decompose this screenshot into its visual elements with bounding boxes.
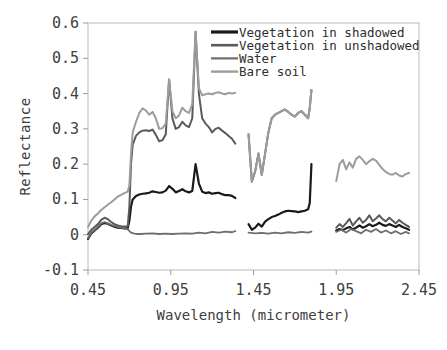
y-tick-label: 0.6 (52, 14, 79, 32)
y-tick-label: 0 (70, 226, 79, 244)
x-tick-label: 2.45 (401, 281, 437, 299)
x-tick-label: 1.95 (318, 281, 354, 299)
x-tick-label: 0.45 (70, 281, 106, 299)
y-tick-label: 0.5 (52, 49, 79, 67)
y-axis-title: Reflectance (17, 97, 33, 195)
y-tick-label: 0.4 (52, 85, 79, 103)
y-tick-label: 0.2 (52, 155, 79, 173)
series-line-3 (336, 229, 409, 234)
series-line-4 (336, 156, 409, 181)
series-line-1 (88, 164, 235, 239)
reflectance-spectra-chart: 0.60.50.40.30.20.10-0.10.450.951.451.952… (0, 0, 447, 350)
y-tick-label: -0.1 (43, 261, 79, 279)
x-tick-label: 0.95 (153, 281, 189, 299)
chart-canvas: 0.60.50.40.30.20.10-0.10.450.951.451.952… (0, 0, 447, 350)
series-line-4 (88, 32, 235, 227)
series-line-3 (88, 222, 235, 238)
series-line-2 (249, 90, 312, 182)
series-line-1 (336, 223, 409, 231)
series-line-3 (249, 232, 312, 234)
y-tick-label: 0.1 (52, 190, 79, 208)
legend-label-4: Bare soil (239, 64, 307, 79)
series-line-1 (249, 164, 312, 230)
series-line-4 (249, 90, 312, 182)
x-tick-label: 1.45 (235, 281, 271, 299)
y-tick-label: 0.3 (52, 120, 79, 138)
x-axis-title: Wavelength (micrometer) (157, 307, 351, 323)
